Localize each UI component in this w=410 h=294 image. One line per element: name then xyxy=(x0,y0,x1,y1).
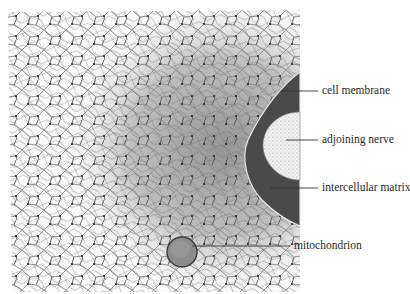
label-mitochondrion: mitochondrion xyxy=(294,240,362,252)
label-intercellular-matrix: intercellular matrix xyxy=(322,182,410,194)
label-adjoining-nerve: adjoining nerve xyxy=(322,134,394,146)
label-cell-membrane: cell membrane xyxy=(322,85,390,97)
